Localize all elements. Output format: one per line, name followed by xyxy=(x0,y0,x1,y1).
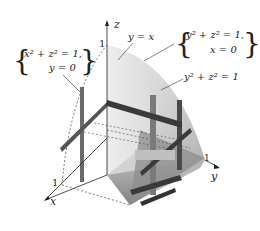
right-brace-close: } xyxy=(243,27,260,60)
plane-label: y = x xyxy=(127,31,154,42)
surface-label: y² + z² = 1 xyxy=(183,71,239,82)
y-axis-arrow-icon xyxy=(214,164,220,169)
right-curve-eq2: x = 0 xyxy=(210,44,237,55)
x-tick-1: 1 xyxy=(52,177,58,188)
z-axis-label: z xyxy=(113,18,120,31)
leader-left-curve xyxy=(63,75,80,92)
left-curve-eq1: x² + z² = 1, xyxy=(24,48,82,59)
x-axis-label: x xyxy=(50,195,57,208)
diagram-canvas: z 1 x 1 y 1 { x² + z² = 1, y = 0 } y = x… xyxy=(0,0,260,231)
bar-vertical-center xyxy=(150,95,156,195)
z-axis-arrow-icon xyxy=(105,20,109,26)
left-brace-close: } xyxy=(80,44,98,77)
bar-vertical-right xyxy=(177,100,182,170)
x-axis-ext xyxy=(45,138,107,200)
bar-vertical-left xyxy=(80,87,84,182)
left-curve-eq2: y = 0 xyxy=(48,62,76,73)
right-curve-eq1: y² + z² = 1, xyxy=(185,29,244,40)
leader-right-curve xyxy=(144,44,174,61)
y-tick-1: 1 xyxy=(204,153,210,163)
y-axis-label: y xyxy=(210,170,218,183)
bar-inner-block xyxy=(135,150,175,160)
z-tick-1: 1 xyxy=(99,38,105,49)
